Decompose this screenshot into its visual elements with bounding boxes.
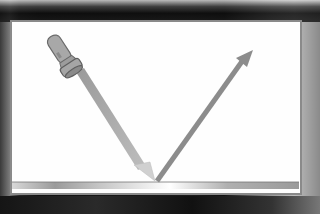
flashlight-icon (42, 31, 85, 81)
mirror (12, 182, 299, 189)
reflected-ray (157, 50, 253, 181)
mirror-surface (12, 182, 299, 189)
reflected-ray-shaft (157, 60, 243, 181)
incident-ray-shaft (76, 68, 146, 170)
reflection-diagram (0, 0, 320, 214)
incident-ray (76, 68, 155, 181)
incident-ray-arrowhead (134, 162, 155, 181)
